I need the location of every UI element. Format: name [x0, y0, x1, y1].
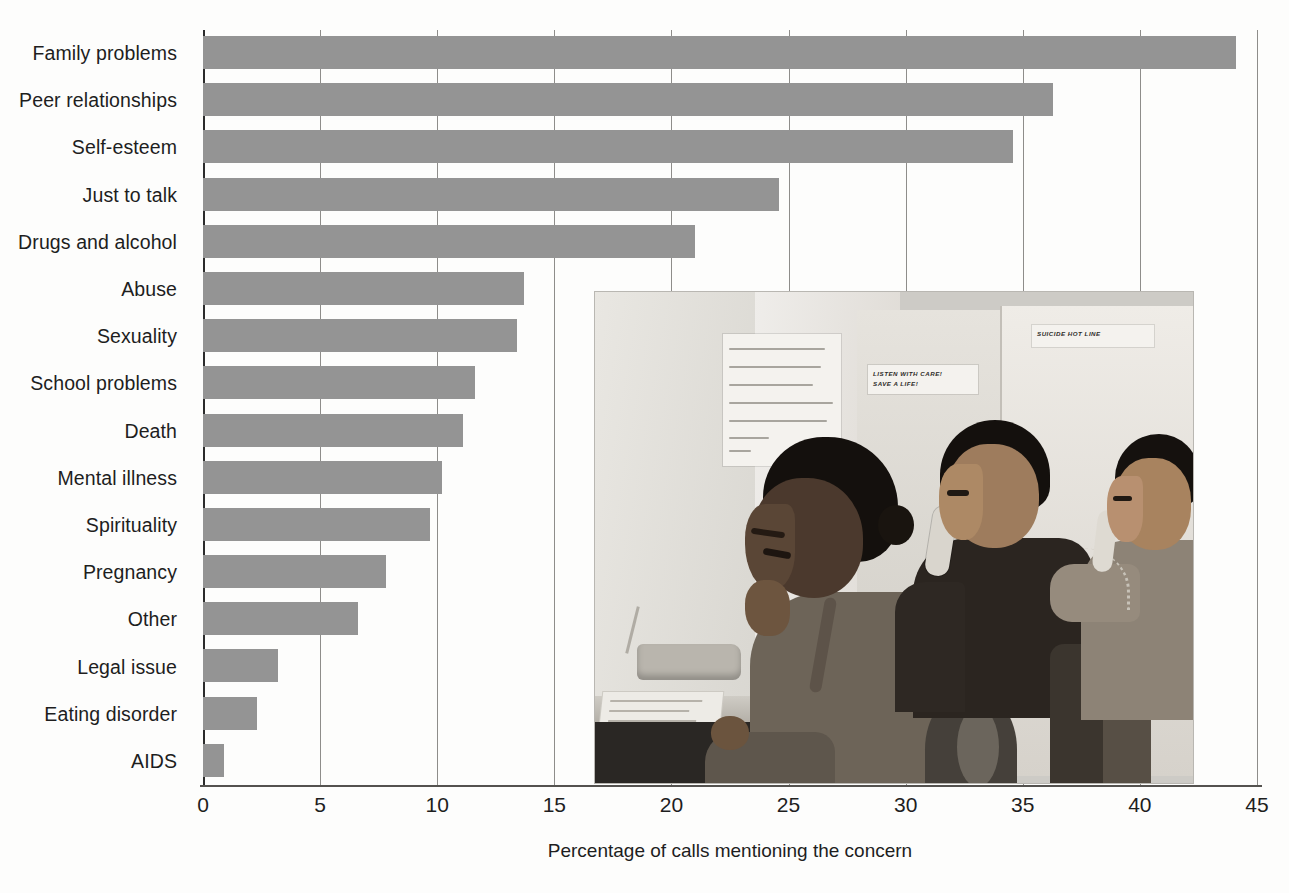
bar — [203, 555, 386, 588]
photo-sign-suicide-hot-line: SUICIDE HOT LINE — [1032, 325, 1154, 347]
y-axis-category-labels: Family problemsPeer relationshipsSelf-es… — [0, 30, 190, 785]
photo-person-2-face — [939, 464, 983, 540]
x-axis-tick-label: 10 — [426, 793, 449, 817]
y-axis-category-label: Legal issue — [0, 643, 190, 690]
bar — [203, 602, 358, 635]
y-axis-category-label: Spirituality — [0, 502, 190, 549]
bar — [203, 697, 257, 730]
bar — [203, 319, 517, 352]
bar — [203, 508, 430, 541]
bar — [203, 649, 278, 682]
photo-person-3-face — [1107, 476, 1143, 542]
photo-person-2-eye — [947, 490, 969, 496]
bar — [203, 272, 524, 305]
photo-person-3-eye — [1113, 496, 1132, 501]
y-axis-category-label: Other — [0, 596, 190, 643]
x-axis-tick-label: 40 — [1128, 793, 1151, 817]
photo-sign-1-line-1: LISTEN WITH CARE! — [873, 369, 973, 379]
x-axis-tick-label: 30 — [894, 793, 917, 817]
photo-person-1-fingers — [711, 716, 749, 750]
bar — [203, 461, 442, 494]
bar — [203, 83, 1053, 116]
x-axis-tick-label: 0 — [197, 793, 209, 817]
x-axis-line — [200, 785, 1262, 787]
photo-person-1-hair-bun — [878, 505, 914, 545]
y-axis-category-label: Mental illness — [0, 455, 190, 502]
photo-sign-1-line-2: SAVE A LIFE! — [873, 379, 973, 389]
photo-sign-listen-with-care: LISTEN WITH CARE! SAVE A LIFE! — [868, 365, 978, 394]
photo-person-1-face — [745, 504, 795, 590]
photo-person-2-chair-back — [957, 707, 999, 783]
y-axis-category-label: AIDS — [0, 738, 190, 785]
bar-row — [203, 77, 1257, 124]
x-axis-tick-label: 20 — [660, 793, 683, 817]
photo-telephone — [637, 644, 741, 680]
bar — [203, 414, 463, 447]
y-axis-category-label: Just to talk — [0, 172, 190, 219]
y-axis-category-label: Family problems — [0, 30, 190, 77]
x-axis-tick-labels: 051015202530354045 — [203, 793, 1257, 827]
bar-row — [203, 172, 1257, 219]
x-axis-tick-label: 15 — [543, 793, 566, 817]
y-axis-category-label: Sexuality — [0, 313, 190, 360]
bar — [203, 744, 224, 777]
bar — [203, 36, 1236, 69]
x-axis-tick-label: 35 — [1011, 793, 1034, 817]
gridline-45 — [1257, 30, 1258, 785]
bar — [203, 178, 779, 211]
chart-figure: Family problemsPeer relationshipsSelf-es… — [0, 0, 1289, 893]
y-axis-category-label: School problems — [0, 360, 190, 407]
y-axis-category-label: Self-esteem — [0, 124, 190, 171]
y-axis-category-label: Abuse — [0, 266, 190, 313]
y-axis-category-label: Pregnancy — [0, 549, 190, 596]
x-axis-title: Percentage of calls mentioning the conce… — [203, 840, 1257, 862]
y-axis-category-label: Death — [0, 408, 190, 455]
bar — [203, 366, 475, 399]
y-axis-category-label: Eating disorder — [0, 691, 190, 738]
photo-person-2-arm — [895, 582, 965, 712]
inset-photograph: LISTEN WITH CARE! SAVE A LIFE! SUICIDE H… — [595, 292, 1193, 783]
x-axis-tick-label: 45 — [1245, 793, 1268, 817]
bar-row — [203, 30, 1257, 77]
y-axis-category-label: Drugs and alcohol — [0, 219, 190, 266]
bar — [203, 225, 695, 258]
bar — [203, 130, 1013, 163]
bar-row — [203, 124, 1257, 171]
x-axis-tick-label: 25 — [777, 793, 800, 817]
x-axis-tick-label: 5 — [314, 793, 326, 817]
y-axis-category-label: Peer relationships — [0, 77, 190, 124]
photo-sign-2-text: SUICIDE HOT LINE — [1037, 329, 1149, 339]
photo-person-1-hand — [745, 580, 790, 636]
bar-row — [203, 219, 1257, 266]
